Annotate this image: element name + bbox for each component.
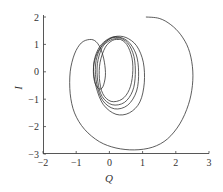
y-tick-label: 0 xyxy=(34,66,39,77)
y-tick-label: −2 xyxy=(28,121,39,132)
y-tick-label: 1 xyxy=(34,39,39,50)
x-tick-label: 0 xyxy=(107,157,112,168)
x-tick-label: −2 xyxy=(38,157,49,168)
y-tick-label: −1 xyxy=(28,94,39,105)
x-tick-label: 3 xyxy=(207,157,212,168)
x-tick-label: −1 xyxy=(71,157,82,168)
y-tick-label: 2 xyxy=(34,12,39,23)
y-axis-title: I xyxy=(12,85,24,91)
x-tick-label: 2 xyxy=(173,157,178,168)
y-tick-label: −3 xyxy=(28,149,39,160)
x-axis-title: Q xyxy=(105,172,113,184)
x-tick-label: 1 xyxy=(140,157,145,168)
phase-portrait-chart: −2−10123 −3−2−1012 Q I xyxy=(0,0,223,192)
trajectory-line xyxy=(70,17,193,150)
plot-area xyxy=(70,17,193,150)
